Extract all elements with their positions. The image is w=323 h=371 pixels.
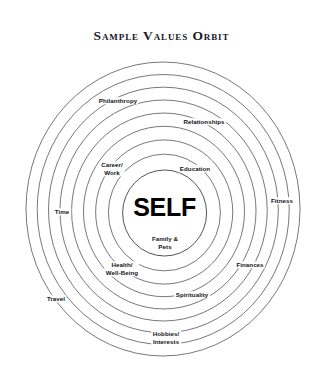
orbit-label-line1: Career/: [101, 161, 123, 169]
orbit-label-line1: Finances: [236, 261, 263, 268]
orbit-svg: [0, 0, 323, 371]
orbit-label-line2: Work: [101, 169, 123, 177]
orbit-label-fitness: Fitness: [269, 197, 294, 204]
values-orbit-page: Sample Values Orbit Family &PetsCareer/W…: [0, 0, 323, 371]
orbit-label-line1: Relationships: [183, 118, 224, 125]
orbit-label-hobbies-interests: Hobbies/Interests: [151, 330, 181, 345]
orbit-label-finances: Finances: [235, 261, 265, 268]
orbit-label-line1: Philanthropy: [99, 97, 137, 104]
orbit-label-line1: Family &: [152, 235, 178, 243]
orbit-label-line2: Well-Being: [106, 269, 138, 277]
orbit-label-health-wellbeing: Health/Well-Being: [104, 261, 139, 276]
orbit-label-line1: Spirituality: [176, 291, 209, 298]
orbit-label-line2: Pets: [152, 243, 178, 251]
orbit-label-line1: Health/: [106, 261, 138, 269]
orbit-label-travel: Travel: [45, 295, 66, 302]
orbit-label-line1: Travel: [47, 295, 65, 302]
orbit-label-philanthropy: Philanthropy: [97, 97, 138, 104]
orbit-label-time: Time: [53, 208, 71, 215]
orbit-label-line2: Interests: [153, 338, 180, 346]
orbit-label-career-work: Career/Work: [100, 161, 125, 176]
orbit-label-education: Education: [178, 165, 211, 172]
orbit-label-family-pets: Family &Pets: [150, 235, 179, 250]
orbit-label-spirituality: Spirituality: [174, 291, 210, 298]
center-self-label: SELF: [133, 195, 196, 220]
orbit-diagram: [0, 0, 323, 371]
orbit-label-line1: Education: [180, 165, 210, 172]
orbit-label-line1: Hobbies/: [153, 330, 180, 338]
orbit-label-relationships: Relationships: [182, 118, 226, 125]
orbit-label-line1: Time: [55, 208, 70, 215]
orbit-label-line1: Fitness: [271, 197, 293, 204]
